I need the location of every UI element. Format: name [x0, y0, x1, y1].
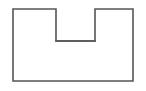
figure-canvas: [0, 0, 146, 91]
h-shape-outline-path: [13, 9, 133, 81]
h-shape-figure: [0, 0, 146, 91]
